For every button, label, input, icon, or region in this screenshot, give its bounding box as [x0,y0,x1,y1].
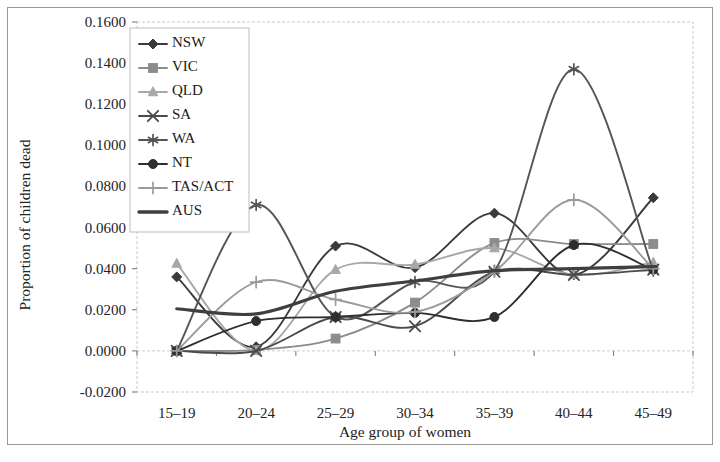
y-axis-ticks: 0.16000.14000.12000.10000.08000.06000.04… [80,14,137,400]
circle-marker [331,312,340,321]
legend-label: QLD [172,82,203,98]
x-tick-label: 30–34 [396,405,434,421]
legend-label: VIC [172,58,198,74]
data-point-marker [649,240,658,249]
y-tick-label: 0.0000 [85,343,126,359]
y-tick-label: 0.0200 [85,302,126,318]
data-point-marker [490,312,499,321]
circle-marker [149,160,158,169]
square-marker [649,240,658,249]
y-tick-label: -0.0200 [80,384,126,400]
x-tick-label: 25–29 [317,405,355,421]
data-point-marker [331,334,340,343]
x-tick-label: 20–24 [237,405,275,421]
line-chart: 0.16000.14000.12000.10000.08000.06000.04… [0,0,720,462]
chart-figure: 0.16000.14000.12000.10000.08000.06000.04… [0,0,720,462]
legend-label: TAS/ACT [172,178,233,194]
circle-marker [252,317,261,326]
square-marker [331,334,340,343]
y-tick-label: 0.1600 [85,14,126,30]
legend-label: AUS [172,202,202,218]
circle-marker [569,241,578,250]
legend-label: NT [172,154,192,170]
x-tick-label: 40–44 [555,405,593,421]
y-tick-label: 0.1200 [85,96,126,112]
legend-label: WA [172,130,195,146]
x-tick-label: 15–19 [158,405,196,421]
data-point-marker [149,160,158,169]
x-tick-label: 45–49 [635,405,673,421]
legend-label: SA [172,106,191,122]
y-tick-label: 0.1000 [85,137,126,153]
y-tick-label: 0.0400 [85,261,126,277]
chart-legend: NSWVICQLDSAWANTTAS/ACTAUS [130,28,249,232]
y-tick-label: 0.0600 [85,220,126,236]
data-point-marker [569,241,578,250]
y-tick-label: 0.1400 [85,55,126,71]
circle-marker [490,312,499,321]
y-tick-label: 0.0800 [85,178,126,194]
x-axis-title: Age group of women [339,423,471,440]
y-axis-title: Proportion of children dead [16,139,33,310]
legend-label: NSW [172,34,206,50]
data-point-marker [331,312,340,321]
x-tick-label: 35–39 [476,405,514,421]
square-marker [149,64,158,73]
data-point-marker [252,317,261,326]
data-point-marker [149,64,158,73]
